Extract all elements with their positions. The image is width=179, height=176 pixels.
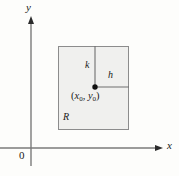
- segment-h-label: h: [108, 70, 113, 80]
- y-axis-arrowhead: [28, 16, 34, 24]
- interior-point-marker: [92, 84, 97, 89]
- x-axis-arrowhead: [155, 145, 163, 151]
- paren-close: ): [96, 90, 100, 101]
- region-label: R: [63, 112, 69, 122]
- segment-k-label: k: [85, 60, 89, 70]
- diagram-vector-layer: [0, 0, 179, 176]
- point-y-symbol: y: [88, 90, 93, 101]
- point-coordinates-label: (x0, y0): [71, 91, 100, 102]
- origin-label: 0: [19, 150, 25, 161]
- point-y-subscript: 0: [93, 95, 97, 103]
- diagram-canvas: y x 0 k h R (x0, y0): [0, 0, 179, 176]
- point-x-subscript: 0: [79, 95, 83, 103]
- y-axis-label: y: [26, 2, 31, 13]
- x-axis-label: x: [167, 140, 172, 151]
